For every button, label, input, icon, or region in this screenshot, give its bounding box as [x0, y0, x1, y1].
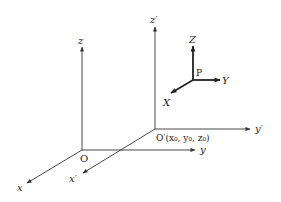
y-prime-axis-label: y′	[254, 123, 264, 134]
origin-o-prime-label: O′(x₀, y₀, z₀)	[156, 133, 210, 143]
frame-p: Z Y X P	[162, 34, 230, 108]
z-prime-axis-label: z′	[149, 14, 158, 25]
x-prime-axis	[83, 129, 155, 173]
coordinate-diagram: z y x O z′ y′ x′ O′(x₀, y₀, z₀) Z Y X P	[0, 0, 281, 202]
X-axis-p-label: X	[162, 97, 171, 108]
x-prime-axis-label: x′	[69, 173, 78, 184]
origin-o-label: O	[80, 153, 88, 164]
x-axis-label: x	[17, 182, 23, 193]
z-axis-label: z	[77, 35, 84, 46]
y-axis-label: y	[199, 144, 206, 155]
Z-axis-p-label: Z	[188, 34, 197, 45]
frame-o: z y x O	[17, 35, 206, 193]
point-p-label: P	[196, 68, 202, 78]
Y-axis-p-label: Y	[222, 75, 230, 86]
X-axis-p	[171, 80, 193, 93]
